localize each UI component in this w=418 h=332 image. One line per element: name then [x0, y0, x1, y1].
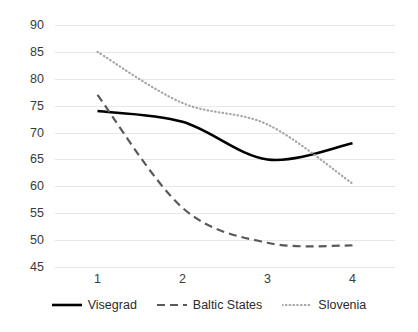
x-axis-tick-label: 1: [78, 272, 118, 286]
chart-legend: VisegradBaltic StatesSlovenia: [0, 298, 418, 312]
chart-title: [0, 0, 418, 3]
series-line-baltic-states: [98, 95, 353, 246]
line-chart: 90858075706560555045 1234 VisegradBaltic…: [0, 0, 418, 332]
y-axis-tick-label: 90: [0, 19, 44, 31]
series-line-slovenia: [98, 52, 353, 184]
legend-item-label: Visegrad: [88, 298, 137, 312]
legend-item-visegrad[interactable]: Visegrad: [52, 298, 137, 312]
legend-item-label: Slovenia: [318, 298, 366, 312]
y-axis-tick-label: 85: [0, 46, 44, 58]
y-axis-tick-label: 75: [0, 100, 44, 112]
y-axis-tick-label: 60: [0, 180, 44, 192]
y-axis-tick-label: 50: [0, 234, 44, 246]
y-axis-tick-label: 45: [0, 261, 44, 273]
x-axis-tick-label: 2: [163, 272, 203, 286]
legend-swatch-icon: [157, 300, 187, 310]
legend-item-slovenia[interactable]: Slovenia: [282, 298, 366, 312]
x-axis-labels: 1234: [55, 272, 395, 292]
x-axis-tick-label: 3: [248, 272, 288, 286]
plot-area: [55, 25, 395, 267]
legend-item-label: Baltic States: [193, 298, 262, 312]
legend-swatch-icon: [282, 300, 312, 310]
y-axis-tick-label: 80: [0, 73, 44, 85]
series-lines: [55, 25, 395, 267]
legend-swatch-icon: [52, 300, 82, 310]
gridline: [55, 267, 395, 268]
y-axis-tick-label: 70: [0, 127, 44, 139]
y-axis-tick-label: 55: [0, 207, 44, 219]
x-axis-tick-label: 4: [333, 272, 373, 286]
legend-item-baltic-states[interactable]: Baltic States: [157, 298, 262, 312]
y-axis-tick-label: 65: [0, 153, 44, 165]
